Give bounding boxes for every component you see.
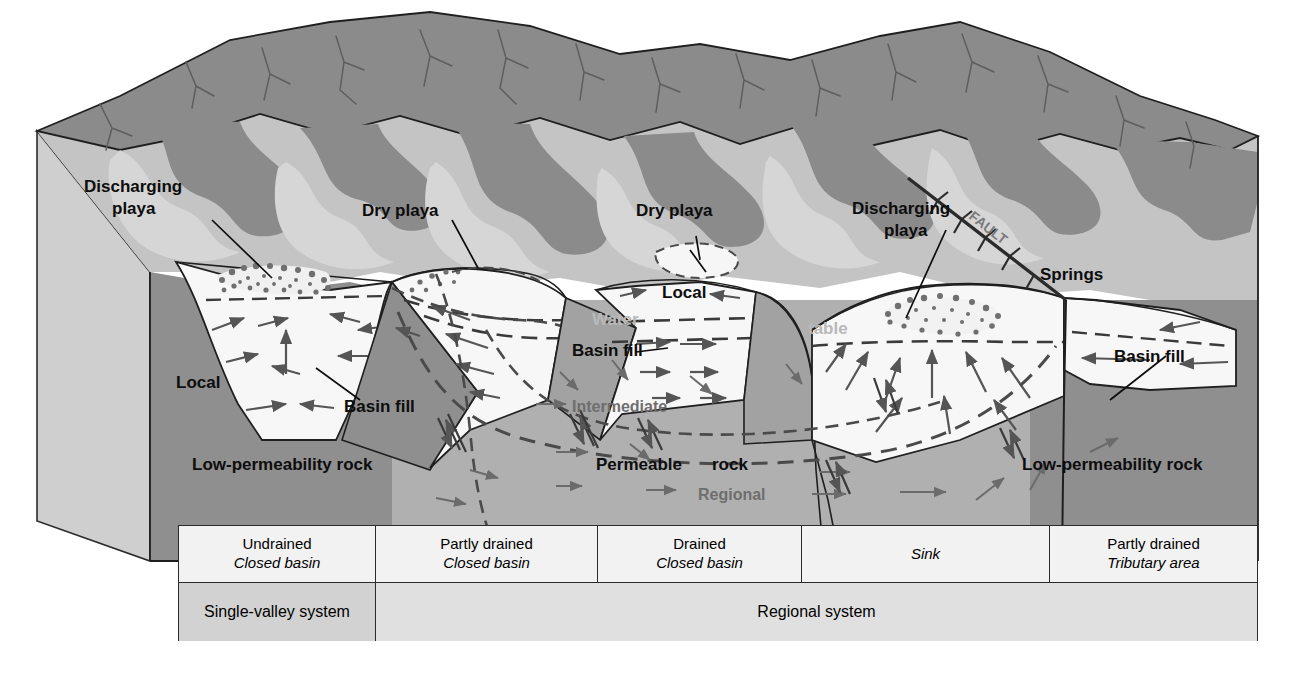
legend-top-0: Undrained bbox=[242, 535, 311, 554]
legend-top-1: Partly drained bbox=[440, 535, 533, 554]
label-permeable-rock-b: rock bbox=[712, 455, 748, 474]
label-table: table bbox=[808, 319, 848, 338]
label-dry-playa-1: Dry playa bbox=[362, 201, 439, 220]
label-discharging-playa-left-line2: playa bbox=[112, 199, 156, 218]
classification-table: Undrained Closed basin Partly drained Cl… bbox=[178, 525, 1258, 641]
label-springs: Springs bbox=[1040, 265, 1103, 284]
legend-top-2: Drained bbox=[673, 535, 726, 554]
label-permeable-rock-a: Permeable bbox=[596, 455, 682, 474]
land-surface bbox=[37, 12, 1258, 300]
label-low-permeability-right: Low-permeability rock bbox=[1022, 455, 1203, 474]
label-basin-fill-3: Basin fill bbox=[1114, 347, 1185, 366]
legend-cell-single-valley-system: Single-valley system bbox=[179, 583, 375, 641]
figure-canvas: Discharging playa Dry playa Dry playa Di… bbox=[0, 0, 1294, 679]
legend-cell-regional-system: Regional system bbox=[375, 583, 1257, 641]
label-basin-fill-1: Basin fill bbox=[344, 397, 415, 416]
label-basin-fill-2: Basin fill bbox=[572, 341, 643, 360]
label-dry-playa-2: Dry playa bbox=[636, 201, 713, 220]
legend-top-4: Partly drained bbox=[1107, 535, 1200, 554]
legend-bottom-0: Closed basin bbox=[234, 554, 321, 573]
label-water: Water bbox=[592, 310, 639, 329]
legend-cell-sink: Sink bbox=[801, 526, 1049, 582]
legend-cell-partly-drained: Partly drained Closed basin bbox=[375, 526, 597, 582]
legend-bottom-3: Sink bbox=[911, 545, 940, 564]
classification-row-system: Single-valley system Regional system bbox=[179, 582, 1257, 641]
legend-cell-tributary: Partly drained Tributary area bbox=[1049, 526, 1257, 582]
label-local-mid: Local bbox=[662, 283, 706, 302]
classification-row-basin-type: Undrained Closed basin Partly drained Cl… bbox=[179, 526, 1257, 582]
legend-system-0: Single-valley system bbox=[204, 602, 350, 622]
label-discharging-playa-right-line1: Discharging bbox=[852, 199, 950, 218]
legend-bottom-2: Closed basin bbox=[656, 554, 743, 573]
label-discharging-playa-right-line2: playa bbox=[884, 221, 928, 240]
legend-bottom-1: Closed basin bbox=[443, 554, 530, 573]
label-local-left: Local bbox=[176, 373, 220, 392]
label-discharging-playa-left-line1: Discharging bbox=[84, 177, 182, 196]
legend-bottom-4: Tributary area bbox=[1107, 554, 1199, 573]
legend-cell-undrained: Undrained Closed basin bbox=[179, 526, 375, 582]
label-regional: Regional bbox=[698, 486, 766, 503]
legend-system-1: Regional system bbox=[757, 602, 875, 622]
legend-cell-drained: Drained Closed basin bbox=[597, 526, 801, 582]
label-intermediate: Intermediate bbox=[572, 398, 667, 415]
label-low-permeability-left: Low-permeability rock bbox=[192, 455, 373, 474]
